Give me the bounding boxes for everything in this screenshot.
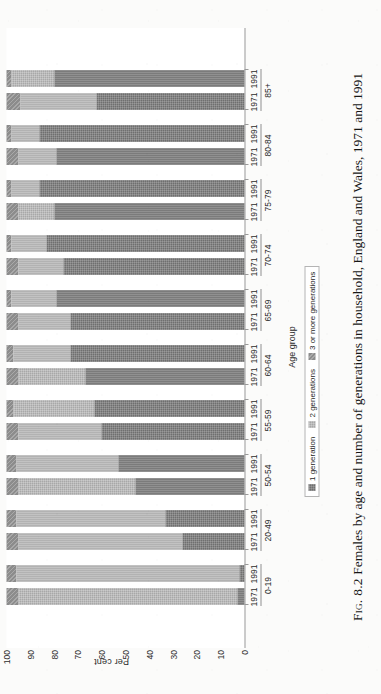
- bar-0-19-1971[interactable]: [6, 589, 244, 606]
- bar-segment-seg2: [18, 259, 63, 276]
- group-underline-60-64: [260, 345, 261, 387]
- bar-70-74-1991[interactable]: [6, 236, 244, 253]
- year-label-60-64-1991: 1991: [248, 337, 258, 371]
- bar-20-49-1991[interactable]: [6, 511, 244, 528]
- bar-segment-seg3: [6, 126, 11, 143]
- bar-segment-seg1: [39, 181, 244, 198]
- group-underline-75-79: [260, 180, 261, 222]
- group-label-65-69: 65-69: [262, 281, 272, 341]
- x-axis-tick: [244, 440, 248, 441]
- year-label-50-54-1991: 1991: [248, 447, 258, 481]
- y-tick-0: 0: [239, 650, 249, 676]
- y-tick-60: 60: [96, 650, 106, 676]
- group-underline-50-54: [260, 455, 261, 497]
- bar-50-54-1991[interactable]: [6, 456, 244, 473]
- bar-segment-seg2: [18, 479, 135, 496]
- bar-65-69-1971[interactable]: [6, 314, 244, 331]
- bar-65-69-1991[interactable]: [6, 291, 244, 308]
- x-axis-label: Age group: [286, 0, 296, 694]
- x-axis-line: [244, 28, 245, 648]
- year-label-75-79-1991: 1991: [248, 172, 258, 206]
- bar-0-19-1991[interactable]: [6, 566, 244, 583]
- year-label-80-84-1991: 1991: [248, 117, 258, 151]
- bar-60-64-1991[interactable]: [6, 346, 244, 363]
- bar-segment-seg3: [6, 94, 20, 111]
- bar-segment-seg1: [63, 259, 244, 276]
- x-axis-tick: [244, 275, 248, 276]
- book-page: Per cent 1009080706050403020100 19711991…: [0, 0, 381, 694]
- bar-segment-seg2: [11, 236, 47, 253]
- group-underline-0-19: [260, 565, 261, 607]
- category-axis: 1971199119711991197119911971199119711991…: [246, 28, 292, 648]
- bar-55-59-1991[interactable]: [6, 401, 244, 418]
- bar-segment-seg3: [6, 566, 16, 583]
- y-tick-10: 10: [215, 650, 225, 676]
- group-underline-80-84: [260, 125, 261, 167]
- bar-80-84-1971[interactable]: [6, 149, 244, 166]
- year-label-70-74-1991: 1991: [248, 227, 258, 261]
- bar-segment-seg2: [11, 71, 54, 88]
- legend-label-2: 2 generations: [307, 369, 316, 417]
- bar-60-64-1971[interactable]: [6, 369, 244, 386]
- x-axis-tick: [244, 235, 248, 236]
- y-tick-40: 40: [144, 650, 154, 676]
- legend-swatch-icon-1: [308, 484, 315, 491]
- x-axis-tick: [244, 605, 248, 606]
- legend-item-2[interactable]: 2 generations: [307, 369, 316, 427]
- figure-caption-text: Females by age and number of generations…: [350, 73, 365, 575]
- bar-segment-seg3: [6, 401, 13, 418]
- bar-segment-seg2: [16, 566, 240, 583]
- bar-75-79-1991[interactable]: [6, 181, 244, 198]
- bar-55-59-1971[interactable]: [6, 424, 244, 441]
- bar-segment-seg3: [6, 71, 11, 88]
- bar-segment-seg2: [18, 534, 182, 551]
- x-axis-tick: [244, 565, 248, 566]
- bar-segment-seg2: [11, 291, 56, 308]
- x-axis-tick: [244, 345, 248, 346]
- bar-85+-1971[interactable]: [6, 94, 244, 111]
- bar-segment-seg1: [54, 204, 244, 221]
- plot-region: [6, 28, 244, 648]
- bar-segment-seg3: [6, 204, 18, 221]
- legend-label-1: 1 generation: [307, 437, 316, 481]
- bar-70-74-1971[interactable]: [6, 259, 244, 276]
- x-axis-tick: [244, 550, 248, 551]
- bar-segment-seg2: [13, 401, 94, 418]
- bar-segment-seg3: [6, 534, 18, 551]
- bar-segment-seg3: [6, 346, 13, 363]
- y-tick-80: 80: [49, 650, 59, 676]
- group-underline-55-59: [260, 400, 261, 442]
- bar-segment-seg3: [6, 456, 16, 473]
- legend-item-3[interactable]: 3 or more generations: [307, 272, 316, 360]
- x-axis-tick: [244, 400, 248, 401]
- bar-20-49-1971[interactable]: [6, 534, 244, 551]
- x-axis-tick: [244, 290, 248, 291]
- group-label-20-49: 20-49: [262, 501, 272, 561]
- bar-segment-seg2: [16, 456, 118, 473]
- bar-85+-1991[interactable]: [6, 71, 244, 88]
- figure-caption: Fig. 8.2 Females by age and number of ge…: [345, 18, 371, 676]
- group-underline-20-49: [260, 510, 261, 552]
- group-label-70-74: 70-74: [262, 226, 272, 286]
- bar-segment-seg1: [96, 94, 244, 111]
- bar-50-54-1971[interactable]: [6, 479, 244, 496]
- bar-segment-seg1: [70, 346, 244, 363]
- group-label-55-59: 55-59: [262, 391, 272, 451]
- bar-segment-seg1: [85, 369, 244, 386]
- x-axis-tick: [244, 110, 248, 111]
- bar-segment-seg1: [56, 291, 244, 308]
- bar-segment-seg3: [6, 181, 11, 198]
- bar-segment-seg1: [56, 149, 244, 166]
- bar-segment-seg2: [18, 314, 70, 331]
- bar-80-84-1991[interactable]: [6, 126, 244, 143]
- group-label-75-79: 75-79: [262, 171, 272, 231]
- bar-75-79-1971[interactable]: [6, 204, 244, 221]
- group-label-80-84: 80-84: [262, 116, 272, 176]
- bar-segment-seg2: [18, 204, 54, 221]
- bar-segment-seg1: [165, 511, 244, 528]
- legend-swatch-icon-3: [308, 353, 315, 360]
- bar-segment-seg3: [6, 424, 18, 441]
- bar-segment-seg3: [6, 236, 11, 253]
- legend-item-1[interactable]: 1 generation: [307, 437, 316, 491]
- x-axis-tick: [244, 510, 248, 511]
